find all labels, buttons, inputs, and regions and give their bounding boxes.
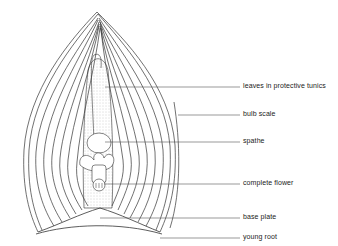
young-root-shape bbox=[36, 226, 162, 234]
spathe-shape bbox=[87, 133, 111, 153]
label-complete-flower: complete flower bbox=[243, 179, 294, 186]
label-young-root: young root bbox=[243, 233, 277, 240]
label-base-plate: base plate bbox=[243, 213, 276, 220]
label-bulb-scale: bulb scale bbox=[243, 110, 276, 117]
label-spathe: spathe bbox=[243, 137, 265, 144]
label-leaves-in-protective-tunics: leaves in protective tunics bbox=[243, 82, 326, 89]
bulb-section-drawing bbox=[0, 0, 338, 246]
